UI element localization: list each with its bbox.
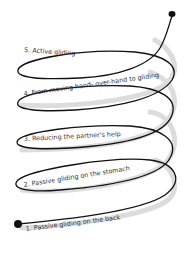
- step-1-label: 1. Passive gliding on the back: [25, 213, 121, 233]
- end-dot: [169, 11, 176, 17]
- start-dot: [14, 220, 22, 228]
- step-5-label: 5. Active gliding: [24, 46, 76, 58]
- spiral-diagram: 5. Active gliding 4. From moving hand- o…: [0, 0, 185, 253]
